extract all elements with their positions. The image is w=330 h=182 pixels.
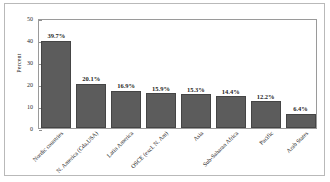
x-axis-category-label-text: OSCE (excl. N. Am) xyxy=(130,130,169,169)
bar-group: 39.7% xyxy=(41,18,71,128)
bar-chart: Percent 01020304050 39.7%20.1%16.9%15.9%… xyxy=(5,4,326,177)
x-axis-category-label-text: Asia xyxy=(192,130,204,142)
y-axis-tick-label: 40 xyxy=(27,38,33,44)
bar-value-label: 15.3% xyxy=(187,86,205,93)
bar-value-label: 15.9% xyxy=(152,85,170,92)
y-axis-tick-label: 30 xyxy=(27,60,33,66)
bar-group: 6.4% xyxy=(286,18,316,128)
x-axis-category-label-text: N. America (Cda,USA) xyxy=(55,130,99,174)
bar-value-label: 20.1% xyxy=(82,75,100,82)
y-axis-tick-label: 50 xyxy=(27,16,33,22)
x-axis-category-label-text: Latin America xyxy=(106,130,135,159)
bar-value-label: 16.9% xyxy=(117,82,135,89)
bar-value-label: 6.4% xyxy=(293,105,308,112)
scanned-page-frame: Percent 01020304050 39.7%20.1%16.9%15.9%… xyxy=(4,3,325,176)
x-axis-category-label-text: Sub-Saharan Africa xyxy=(201,130,239,168)
x-axis-category-label-text: Nordic countries xyxy=(32,130,65,163)
bar[interactable] xyxy=(41,41,71,128)
y-axis-tick-label: 10 xyxy=(27,104,33,110)
x-axis-category-label-text: Pacific xyxy=(258,130,274,146)
bar-group: 14.4% xyxy=(216,18,246,128)
x-axis-category-labels: Nordic countriesN. America (Cda,USA)Lati… xyxy=(38,130,317,177)
y-axis-tick-label: 20 xyxy=(27,82,33,88)
bar-value-label: 39.7% xyxy=(47,32,65,39)
bar-value-label: 14.4% xyxy=(222,88,240,95)
page-background: Percent 01020304050 39.7%20.1%16.9%15.9%… xyxy=(5,4,324,175)
y-axis-tick-labels: 01020304050 xyxy=(13,4,35,177)
x-axis-category-label-text: Arab States xyxy=(285,130,309,154)
y-axis-tick-label: 0 xyxy=(30,126,33,132)
